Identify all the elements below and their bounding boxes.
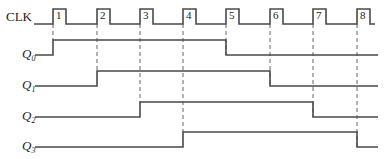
clock-pulse-number: 5 (229, 9, 235, 21)
q3-trace (35, 132, 378, 147)
q2-label: Q2 (22, 108, 35, 125)
clk-trace (34, 9, 375, 24)
q0-label: Q0 (22, 46, 35, 63)
clock-pulse-number: 4 (186, 9, 192, 21)
clock-pulse-number: 8 (360, 9, 366, 21)
q0-trace (35, 40, 378, 55)
clock-pulse-number: 7 (316, 9, 322, 21)
clk-label: CLK (6, 9, 33, 24)
timing-diagram: CLKQ0Q1Q2Q3 12345678 (0, 0, 385, 159)
q1-trace (35, 71, 378, 86)
q1-label: Q1 (22, 77, 35, 94)
clock-pulse-number: 1 (56, 9, 62, 21)
clock-pulse-number: 3 (143, 9, 149, 21)
output-waveforms (35, 40, 378, 147)
clock-pulse-number: 2 (100, 9, 106, 21)
q2-trace (35, 102, 378, 117)
clock-pulse-number: 6 (273, 9, 279, 21)
q3-label: Q3 (22, 138, 35, 155)
clock-waveform: 12345678 (34, 9, 375, 24)
signal-labels: CLKQ0Q1Q2Q3 (6, 9, 35, 155)
